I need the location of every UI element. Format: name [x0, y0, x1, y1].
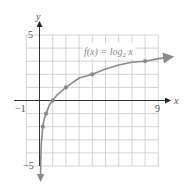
- fn-label-var: x: [126, 46, 134, 57]
- fn-label-main: f(x) = log: [84, 46, 122, 58]
- point-four: [90, 72, 94, 76]
- data-points: [41, 59, 148, 129]
- log-function-graph: y x 5 −5 −1 9 f(x) = log2 x: [0, 0, 188, 186]
- x-tick-max: 9: [155, 103, 160, 114]
- point-half: [44, 112, 48, 116]
- point-quarter: [41, 125, 45, 129]
- point-eight: [143, 59, 147, 63]
- x-axis-label: x: [173, 95, 179, 106]
- curve-arrow-down-icon: [37, 174, 44, 182]
- y-axis-label: y: [35, 11, 41, 22]
- y-tick-min: −5: [23, 160, 34, 171]
- y-tick-max: 5: [28, 29, 33, 40]
- x-tick-min: −1: [15, 103, 26, 114]
- point-one: [51, 98, 55, 102]
- point-two: [64, 85, 68, 89]
